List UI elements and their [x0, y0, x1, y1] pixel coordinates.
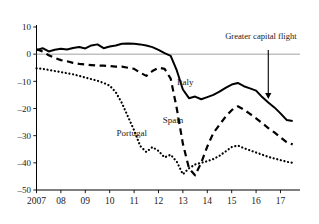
x-tick-label: 13 [178, 196, 188, 206]
series-line-italy [37, 44, 293, 121]
y-tick-label: –10 [17, 77, 32, 87]
x-axis-tick-labels: 200708091011121314151617 [27, 196, 285, 206]
y-tick-label: –20 [17, 104, 32, 114]
y-tick-label: 10 [22, 22, 32, 32]
y-tick-label: –40 [17, 158, 32, 168]
line-chart: 100–10–20–30–40–50 200708091011121314151… [0, 0, 319, 224]
y-axis-tick-labels: 100–10–20–30–40–50 [17, 22, 32, 195]
y-tick-label: –50 [17, 185, 32, 195]
chart-container: 100–10–20–30–40–50 200708091011121314151… [0, 0, 319, 224]
x-tick-label: 16 [251, 196, 261, 206]
annotation-text: Greater capital flight [225, 31, 297, 41]
axis-group [33, 25, 300, 193]
series-label-italy: Italy [177, 77, 194, 87]
x-tick-label: 15 [227, 196, 237, 206]
y-tick-label: –30 [17, 131, 32, 141]
x-tick-label: 11 [130, 196, 139, 206]
x-tick-label: 14 [203, 196, 213, 206]
series-label-spain: Spain [163, 115, 184, 125]
series-line-spain [37, 49, 293, 175]
x-tick-label: 12 [154, 196, 164, 206]
x-tick-label: 17 [276, 196, 286, 206]
x-tick-label: 09 [81, 196, 91, 206]
x-tick-label: 08 [56, 196, 66, 206]
series-inline-labels: ItalySpainPortugal [116, 77, 194, 138]
x-tick-label: 2007 [27, 196, 46, 206]
y-tick-label: 0 [27, 49, 32, 59]
series-label-portugal: Portugal [116, 128, 147, 138]
annotation-group: Greater capital flight [225, 31, 297, 99]
x-tick-label: 10 [105, 196, 115, 206]
series-group [37, 44, 293, 176]
annotation-arrow-head [265, 93, 271, 99]
